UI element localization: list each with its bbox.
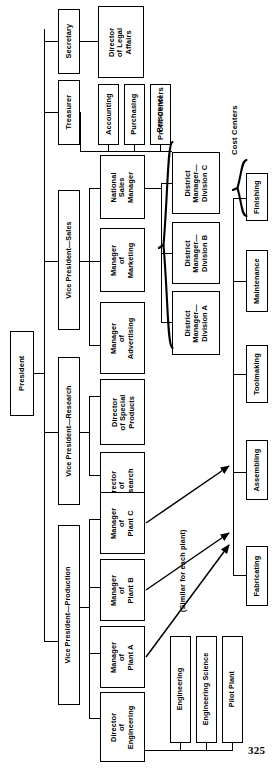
tick-plant-c — [89, 519, 100, 520]
box-district-manager-division-b-label: District Manager— Division B — [184, 234, 209, 273]
box-manager-of-advertising-label: Manager of Advertising — [110, 317, 135, 359]
box-secretary[interactable]: Secretary — [58, 9, 80, 74]
tick-engineering — [180, 743, 181, 751]
tick-plant-b — [89, 587, 100, 588]
tick-toolmaking — [233, 374, 246, 375]
tick-director-engineering — [89, 718, 100, 719]
box-district-manager-division-c[interactable]: District Manager— Division C — [172, 152, 220, 214]
box-finishing-label: Finishing — [253, 180, 261, 214]
branch-vp-production — [44, 641, 59, 642]
box-fabricating[interactable]: Fabricating — [246, 546, 268, 606]
branch-vp-research — [44, 432, 59, 433]
box-district-manager-division-a[interactable]: District Manager— Division A — [172, 291, 220, 355]
tick-special-products — [89, 396, 100, 397]
box-purchasing-label: Purchasing — [130, 94, 138, 135]
box-director-special-products[interactable]: Director of Special Products — [100, 379, 145, 445]
branch-treasurer — [44, 112, 59, 113]
spine-president-down — [44, 374, 45, 642]
box-accounting[interactable]: Accounting — [98, 84, 119, 145]
box-toolmaking-label: Toolmaking — [253, 353, 261, 395]
bus-vp-production — [89, 519, 90, 719]
bus-engineering-h — [145, 750, 233, 751]
box-treasurer[interactable]: Treasurer — [58, 80, 80, 145]
link-secretary-legal — [80, 41, 98, 42]
tick-maintenance — [233, 281, 246, 282]
box-engineering-label: Engineering — [176, 668, 184, 711]
tick-assembling — [233, 472, 246, 473]
box-director-engineering[interactable]: Director of Engineering — [100, 692, 145, 762]
box-director-engineering-label: Director of Engineering — [110, 705, 135, 749]
similar-for-each-plant-note: (Similar for each plant) — [178, 529, 187, 612]
box-finishing[interactable]: Finishing — [246, 173, 268, 221]
box-purchasing[interactable]: Purchasing — [124, 84, 145, 145]
branch-secretary — [44, 41, 59, 42]
stub-president — [34, 373, 45, 374]
box-manager-plant-c[interactable]: Manager of Plant C — [100, 492, 145, 554]
box-pilot-plant[interactable]: Pilot Plant — [222, 636, 243, 743]
box-president-label: President — [18, 356, 27, 392]
box-engineering-science[interactable]: Engineering Science — [196, 636, 217, 743]
box-pilot-plant-label: Pilot Plant — [228, 671, 236, 707]
tick-plant-a — [89, 653, 100, 654]
box-engineering-science-label: Engineering Science — [202, 653, 210, 726]
box-vp-research-label: Vice President—Research — [65, 385, 73, 476]
box-accounting-label: Accounting — [104, 94, 112, 136]
box-district-manager-division-b[interactable]: District Manager— Division B — [172, 222, 220, 284]
box-manager-of-marketing-label: Manager of Marketing — [110, 242, 135, 278]
tick-national-sales-mgr — [89, 188, 100, 189]
box-vp-production-label: Vice President—Production — [65, 566, 73, 663]
box-assembling[interactable]: Assembling — [246, 440, 268, 500]
tick-purchasing — [134, 145, 135, 152]
bus-cost-centers — [233, 198, 234, 576]
box-maintenance-label: Maintenance — [253, 258, 261, 304]
box-secretary-label: Secretary — [65, 24, 73, 59]
tick-engineering-science — [206, 743, 207, 751]
box-national-sales-manager[interactable]: National Sales Manager — [100, 155, 145, 219]
box-national-sales-manager-label: National Sales Manager — [110, 171, 135, 202]
org-chart-page: President Secretary Treasurer Director o… — [0, 0, 276, 774]
box-treasurer-label: Treasurer — [65, 95, 73, 130]
tick-manager-advertising — [89, 345, 100, 346]
box-vp-sales-label: Vice President—Sales — [65, 221, 73, 298]
box-director-special-products-label: Director of Special Products — [110, 394, 135, 430]
box-manager-of-advertising[interactable]: Manager of Advertising — [100, 302, 145, 374]
spine-president-up — [44, 29, 45, 374]
box-district-manager-division-a-label: District Manager— Division A — [184, 304, 209, 343]
tick-accounting — [108, 145, 109, 152]
bus-vp-research — [89, 396, 90, 476]
box-district-manager-division-c-label: District Manager— Division C — [184, 164, 209, 203]
box-manager-plant-a-label: Manager of Plant A — [110, 641, 135, 672]
box-manager-plant-b-label: Manager of Plant B — [110, 574, 135, 605]
tick-manager-marketing — [89, 261, 100, 262]
box-vp-research[interactable]: Vice President—Research — [58, 357, 80, 505]
box-vp-production[interactable]: Vice President—Production — [58, 525, 80, 705]
box-manager-of-marketing[interactable]: Manager of Marketing — [100, 228, 145, 292]
box-manager-plant-a[interactable]: Manager of Plant A — [100, 626, 145, 688]
cost-centers-brace — [232, 158, 248, 220]
box-president[interactable]: President — [10, 331, 34, 416]
box-director-legal-affairs-label: Director of Legal Affairs — [109, 27, 134, 56]
box-vp-sales[interactable]: Vice President—Sales — [58, 190, 80, 330]
box-manager-plant-c-label: Manager of Plant C — [110, 507, 135, 538]
bus-treasurer-v — [80, 112, 81, 152]
box-assembling-label: Assembling — [253, 449, 261, 492]
page-number: 325 — [248, 744, 265, 756]
box-engineering[interactable]: Engineering — [170, 636, 191, 743]
box-maintenance[interactable]: Maintenance — [246, 250, 268, 312]
branch-vp-sales — [44, 261, 59, 262]
tick-pilot-plant — [232, 743, 233, 751]
cost-centers-label: Cost Centers — [230, 105, 239, 155]
box-director-legal-affairs[interactable]: Director of Legal Affairs — [98, 6, 144, 78]
box-fabricating-label: Fabricating — [253, 556, 261, 597]
box-manager-plant-b[interactable]: Manager of Plant B — [100, 559, 145, 621]
profit-centers-brace — [158, 140, 174, 356]
tick-director-research — [89, 475, 100, 476]
box-toolmaking[interactable]: Toolmaking — [246, 345, 268, 403]
tick-fabricating — [233, 575, 246, 576]
bus-vp-sales — [89, 188, 90, 346]
profit-centers-label: Profit Centers — [156, 87, 165, 140]
